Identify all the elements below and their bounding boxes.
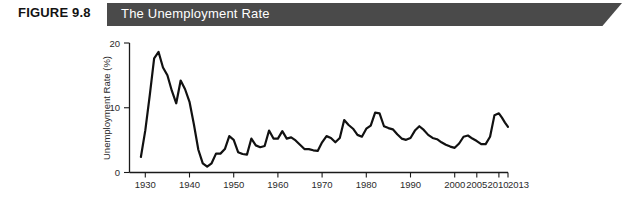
x-tick-label-2005: 2005	[466, 179, 487, 190]
y-tick-label-20: 20	[109, 38, 120, 49]
x-tick-label-2013: 2013	[508, 179, 529, 190]
x-tick-label-1940: 1940	[179, 179, 200, 190]
figure-title-banner: The Unemployment Rate	[107, 3, 622, 26]
page-bleed-artifact	[0, 206, 630, 216]
x-tick-label-2010: 2010	[487, 179, 508, 190]
x-axis-ticks	[145, 173, 508, 178]
unemployment-rate-series	[141, 52, 508, 167]
chart-plot-area: 20 10 0 Unemployment Rate (%) 1930 1940 …	[0, 30, 630, 190]
x-tick-label-1950: 1950	[223, 179, 244, 190]
figure-number-label: FIGURE 9.8	[18, 5, 91, 20]
x-tick-label-1970: 1970	[312, 179, 333, 190]
x-tick-label-1980: 1980	[356, 179, 377, 190]
x-tick-label-2000: 2000	[444, 179, 465, 190]
x-tick-label-1960: 1960	[267, 179, 288, 190]
y-axis-ticks	[124, 43, 130, 173]
y-tick-label-0: 0	[115, 167, 120, 178]
figure-title-text: The Unemployment Rate	[121, 6, 270, 21]
y-axis-title: Unemployment Rate (%)	[101, 56, 112, 160]
unemployment-line-chart: 20 10 0 Unemployment Rate (%) 1930 1940 …	[0, 30, 630, 190]
x-tick-label-1990: 1990	[400, 179, 421, 190]
x-tick-label-1930: 1930	[135, 179, 156, 190]
figure-header: FIGURE 9.8 The Unemployment Rate	[0, 0, 630, 30]
